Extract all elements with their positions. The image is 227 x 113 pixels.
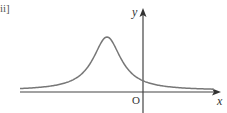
graph-canvas [0, 0, 227, 113]
x-axis-label: x [217, 95, 222, 107]
function-curve [20, 37, 214, 89]
origin-label: O [132, 94, 140, 106]
y-axis-label: y [132, 6, 137, 18]
graph-figure: ii] y O x [0, 0, 227, 113]
